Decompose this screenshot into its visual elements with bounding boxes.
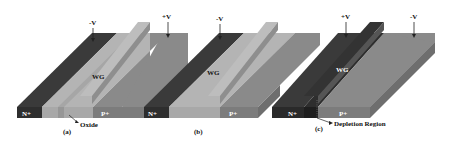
n-plus-label: N+: [148, 110, 157, 118]
depletion-pointer: [317, 118, 331, 123]
depletion-label: Depletion Region: [334, 120, 386, 128]
intrinsic-front: [42, 107, 93, 118]
voltage-label-right: +V: [162, 13, 171, 21]
caption-b: (b): [194, 128, 203, 136]
caption-a: (a): [63, 128, 72, 136]
p-plus-label: P+: [229, 110, 237, 118]
waveguide-label: WG: [92, 73, 105, 81]
caption-c: (c): [315, 125, 323, 133]
voltage-label-left: +V: [341, 13, 350, 21]
waveguide-label: WG: [207, 69, 220, 77]
n-plus-label: N+: [22, 110, 31, 118]
voltage-label-right: -V: [410, 13, 417, 21]
voltage-label-left: -V: [216, 15, 223, 23]
n-plus-label: N+: [288, 110, 297, 118]
p-plus-label: P+: [339, 110, 347, 118]
voltage-label-left: -V: [89, 19, 96, 27]
panel-c: +V -V N+ P+ WG Depletion Region (c): [272, 13, 435, 133]
intrinsic-front: [169, 107, 220, 118]
p-plus-front: [220, 107, 258, 118]
p-plus-label: P+: [101, 110, 109, 118]
p-plus-front-ext: [122, 107, 147, 118]
depletion-arrow-icon: [329, 121, 333, 125]
modulator-diagram: -V N+ P+ WG Oxide (a) +V -V N+ P+ WG: [0, 0, 452, 142]
waveguide-label: WG: [336, 66, 349, 74]
depletion-front: [304, 107, 318, 118]
oxide-label: Oxide: [80, 121, 98, 129]
oxide-front: [58, 107, 64, 118]
